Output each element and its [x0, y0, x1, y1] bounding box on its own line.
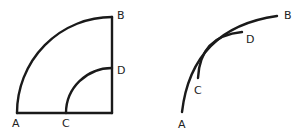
right-figure: A C D B [178, 9, 292, 131]
label-d: D [246, 33, 254, 46]
diagram-canvas: A C B D A C D B [0, 0, 304, 135]
label-a: A [178, 118, 186, 131]
label-c: C [62, 117, 70, 130]
inner-arc-cd [66, 68, 112, 113]
label-d: D [117, 64, 125, 77]
label-b: B [284, 9, 292, 22]
label-b: B [117, 9, 125, 22]
outer-arc-ab [17, 17, 112, 113]
label-a: A [12, 117, 20, 130]
label-c: C [194, 84, 202, 97]
arc-ab [182, 16, 277, 112]
left-figure: A C B D [12, 9, 125, 130]
arc-cd [198, 32, 242, 78]
